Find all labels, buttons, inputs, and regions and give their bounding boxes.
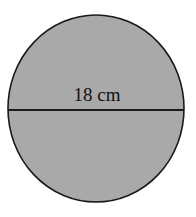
diameter-label: 18 cm xyxy=(74,84,121,105)
circle-shape xyxy=(8,15,184,202)
circle-diagram: 18 cm xyxy=(0,0,196,217)
circle-svg: 18 cm xyxy=(0,0,196,217)
